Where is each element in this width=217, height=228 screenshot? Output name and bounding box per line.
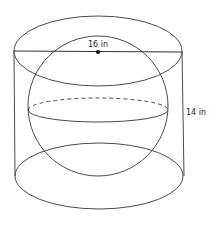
height-label: 14 in (186, 108, 206, 117)
sphere-equator-front (28, 110, 168, 122)
diameter-label: 16 in (88, 40, 108, 49)
cylinder-sphere-diagram: 16 in 14 in (0, 0, 217, 228)
sphere-equator-back-dashed (28, 98, 168, 110)
sphere-outline (28, 36, 168, 176)
cylinder-right-wall (182, 51, 184, 176)
cylinder-left-wall (14, 51, 15, 176)
center-point (96, 50, 100, 54)
